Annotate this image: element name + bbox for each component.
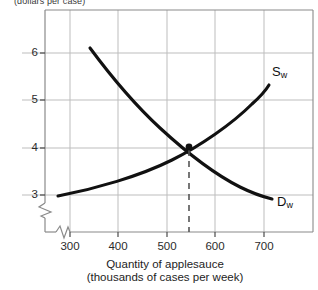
x-tick-label-700: 700: [244, 240, 284, 252]
y-axis-ticks: [40, 53, 45, 195]
x-tick-label-400: 400: [98, 240, 138, 252]
x-axis-title-line1: Quantity of applesauce: [40, 258, 290, 272]
supply-curve: [58, 85, 269, 196]
demand-curve: [90, 48, 272, 199]
y-tick-label-5: 5: [20, 93, 38, 105]
supply-curve-label-sub: w: [281, 70, 288, 80]
x-axis-ticks: [70, 232, 264, 237]
axis-frame: [39, 10, 313, 238]
demand-curve-label-text: D: [277, 194, 286, 209]
supply-demand-chart: (dollars per case): [0, 0, 318, 290]
demand-curve-label-sub: w: [286, 200, 293, 210]
x-axis-break-icon: [56, 226, 70, 238]
x-tick-label-500: 500: [147, 240, 187, 252]
x-tick-label-600: 600: [195, 240, 235, 252]
y-tick-label-6: 6: [20, 46, 38, 58]
x-axis-title-line2: (thousands of cases per week): [40, 271, 290, 285]
supply-curve-label-text: S: [272, 64, 281, 79]
y-tick-label-4: 4: [20, 141, 38, 153]
supply-curve-label: Sw: [272, 64, 287, 79]
y-tick-label-3: 3: [20, 188, 38, 200]
equilibrium-point-marker: [186, 144, 193, 151]
y-axis-break-icon: [39, 203, 51, 218]
demand-curve-label: Dw: [277, 194, 293, 209]
x-tick-label-300: 300: [50, 240, 90, 252]
